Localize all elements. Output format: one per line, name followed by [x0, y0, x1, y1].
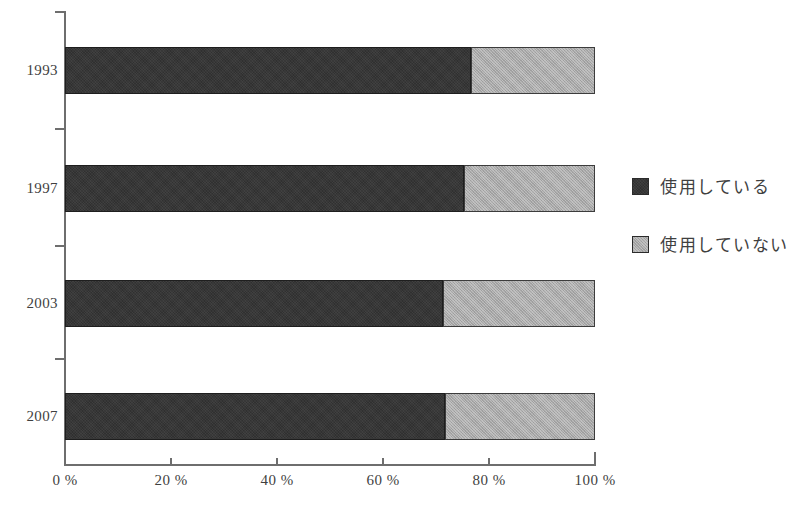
- x-axis-tick-label-20: 20 %: [126, 472, 216, 489]
- y-axis-label-1997: 1997: [6, 165, 58, 212]
- x-axis-tick-label-0: 0 %: [20, 472, 110, 489]
- y-axis-tick-2: [55, 245, 65, 247]
- y-axis-label-1993-wrap: 1993: [0, 47, 58, 94]
- x-axis-tick-label-80: 80 %: [444, 472, 534, 489]
- bar-segment-1997-in-use: [65, 165, 464, 212]
- x-axis-tick-label-100: 100 %: [550, 472, 640, 489]
- y-axis-label-2007: 2007: [6, 393, 58, 440]
- y-axis-label-2003-wrap: 2003: [0, 280, 58, 327]
- x-axis-tick-60: [382, 458, 384, 466]
- x-axis-tick-20: [170, 458, 172, 466]
- x-axis-tick-label-60: 60 %: [338, 472, 428, 489]
- legend-label-in-use: 使用している: [660, 174, 770, 200]
- legend-swatch-icon-not-in-use: [632, 236, 649, 253]
- legend-label-not-in-use: 使用していない: [660, 232, 789, 258]
- stacked-bar-chart: 1993 1997 2003 2007 0 % 20 % 40 % 60 % 8…: [0, 0, 791, 511]
- x-axis-tick-0: [64, 452, 66, 465]
- x-axis-line: [64, 464, 596, 466]
- y-axis-tick-1: [55, 128, 65, 130]
- y-axis-label-1997-wrap: 1997: [0, 165, 58, 212]
- x-axis-tick-80: [488, 458, 490, 466]
- y-axis-tick-top: [55, 11, 65, 13]
- y-axis-label-2007-wrap: 2007: [0, 393, 58, 440]
- bar-segment-2003-not-in-use: [443, 280, 595, 327]
- y-axis-tick-3: [55, 358, 65, 360]
- y-axis-label-1993: 1993: [6, 47, 58, 94]
- bar-segment-1997-not-in-use: [464, 165, 595, 212]
- x-axis-tick-40: [276, 458, 278, 466]
- bar-segment-1993-in-use: [65, 47, 471, 94]
- x-axis-tick-label-40: 40 %: [232, 472, 322, 489]
- bar-segment-2007-not-in-use: [445, 393, 595, 440]
- legend-swatch-icon-in-use: [632, 178, 649, 195]
- bar-segment-2003-in-use: [65, 280, 443, 327]
- x-axis-tick-100: [594, 452, 596, 465]
- bar-segment-2007-in-use: [65, 393, 445, 440]
- y-axis-label-2003: 2003: [6, 280, 58, 327]
- bar-segment-1993-not-in-use: [471, 47, 595, 94]
